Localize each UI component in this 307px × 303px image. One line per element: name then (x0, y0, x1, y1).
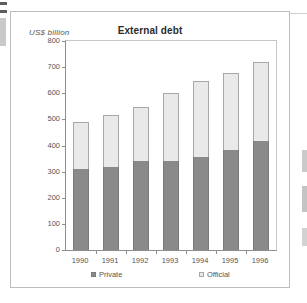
bar-segment-private[interactable] (133, 161, 149, 250)
bar-segment-official[interactable] (103, 115, 119, 168)
y-axis-tick-label: 300 (14, 168, 60, 176)
y-axis-tick-label: 200 (14, 194, 60, 202)
y-axis-tick-mark (62, 250, 66, 251)
y-axis-tick-mark (62, 172, 66, 173)
bar-group[interactable] (253, 62, 269, 250)
scan-artifact-right-c (302, 228, 307, 246)
y-axis-tick-mark (62, 198, 66, 199)
bar-segment-official[interactable] (223, 73, 239, 150)
plot-area: 8007006005004003002001000 (66, 41, 276, 250)
x-axis-separator-tick (96, 250, 97, 254)
y-axis-tick-label: 800 (14, 37, 60, 45)
y-axis-tick-mark (62, 224, 66, 225)
x-axis-separator-tick (156, 250, 157, 254)
chart-card: US$ billion External debt 80070060050040… (10, 11, 290, 288)
scan-artifact-right-rule (287, 13, 307, 14)
bar-segment-official[interactable] (133, 107, 149, 162)
y-axis-tick-label: 500 (14, 116, 60, 124)
bar-segment-private[interactable] (193, 157, 209, 250)
chart-legend: Private Official (65, 270, 277, 282)
scan-artifact-right-b (302, 186, 307, 212)
y-axis-tick-label: 0 (14, 246, 60, 254)
scan-artifact-left-bar (0, 18, 6, 46)
scan-artifact-right-a (302, 150, 307, 172)
y-axis-tick-mark (62, 146, 66, 147)
bar-segment-official[interactable] (193, 81, 209, 157)
bar-group[interactable] (223, 73, 239, 250)
legend-item-private: Private (91, 270, 122, 279)
legend-label-private: Private (99, 270, 122, 279)
y-axis-tick-label: 400 (14, 142, 60, 150)
bar-group[interactable] (133, 107, 149, 250)
x-axis-separator-tick (126, 250, 127, 254)
bar-group[interactable] (193, 81, 209, 250)
bar-segment-private[interactable] (73, 169, 89, 251)
x-axis-tick-label: 1996 (238, 256, 282, 265)
x-axis-separator-tick (246, 250, 247, 254)
bar-segment-private[interactable] (163, 161, 179, 250)
y-axis-tick-label: 600 (14, 90, 60, 98)
x-axis-separator-tick (186, 250, 187, 254)
scan-artifact-left-mid (0, 10, 7, 13)
bar-segment-private[interactable] (253, 141, 269, 250)
y-axis-tick-mark (62, 119, 66, 120)
y-axis-tick-mark (62, 93, 66, 94)
plot-frame: 8007006005004003002001000 (65, 40, 277, 251)
y-axis-tick-label: 700 (14, 63, 60, 71)
bar-segment-official[interactable] (253, 62, 269, 141)
legend-swatch-official-icon (199, 272, 204, 277)
bar-group[interactable] (73, 122, 89, 250)
legend-item-official: Official (199, 270, 230, 279)
bar-group[interactable] (163, 93, 179, 250)
bar-group[interactable] (103, 115, 119, 250)
y-axis-tick-mark (62, 41, 66, 42)
bar-segment-private[interactable] (103, 167, 119, 250)
x-axis-separator-tick (216, 250, 217, 254)
chart-title: External debt (11, 25, 289, 36)
y-axis-tick-mark (62, 67, 66, 68)
bar-segment-official[interactable] (73, 122, 89, 169)
legend-swatch-private-icon (91, 272, 96, 277)
scan-artifact-left-top (0, 2, 7, 5)
bar-segment-private[interactable] (223, 150, 239, 250)
legend-label-official: Official (207, 270, 230, 279)
y-axis-tick-label: 100 (14, 220, 60, 228)
bar-segment-official[interactable] (163, 93, 179, 161)
